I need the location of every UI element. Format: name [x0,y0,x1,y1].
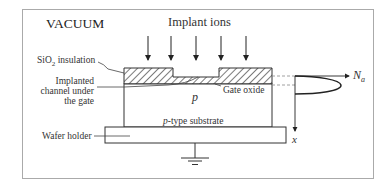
implant-arrows [148,36,246,60]
projection-lines [272,76,295,85]
implanted-channel-label: Implanted channel under the gate [40,76,94,106]
doping-profile [295,76,349,131]
sio2-oxide-layer [124,68,272,84]
x-axis-label: x [292,134,297,144]
implant-ions-label: Implant ions [168,17,231,27]
sio2-insulation-label: SiO2 insulation [37,55,95,69]
substrate-label: p-type substrate [163,116,223,126]
wafer-holder-label: Wafer holder [42,131,92,141]
gate-oxide-label: Gate oxide [223,85,264,95]
p-region-label: p [192,92,198,102]
vacuum-title: VACUUM [46,16,104,32]
na-axis-label: Na [353,70,365,85]
ground-icon [181,143,209,165]
wafer-holder [105,127,286,143]
